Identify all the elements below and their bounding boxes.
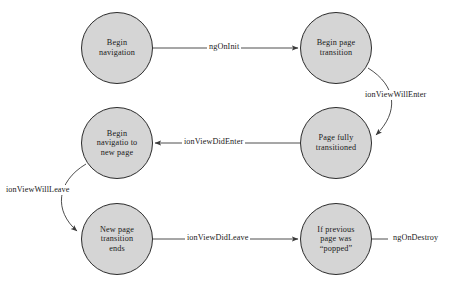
node-page-fully-transitioned[interactable]: Page fully transitioned	[300, 107, 372, 179]
node-begin-navigation-new-page[interactable]: Begin navigatio to new page	[81, 107, 153, 179]
edge-label-ion-view-did-enter: ionViewDidEnter	[182, 137, 245, 147]
edge-label-ion-view-did-leave: ionViewDidLeave	[185, 233, 250, 243]
node-begin-page-transition-label: Begin page transition	[313, 38, 360, 57]
node-begin-navigation-label: Begin navigation	[95, 38, 139, 57]
edge-label-ion-view-will-leave: ionViewWillLeave	[4, 185, 72, 195]
node-page-fully-transitioned-label: Page fully transitioned	[312, 133, 360, 152]
edge-ion-view-will-enter-curve	[368, 68, 392, 135]
node-begin-navigation-new-page-label: Begin navigatio to new page	[93, 129, 142, 158]
edge-label-ng-on-init: ngOnInit	[207, 42, 241, 52]
edge-label-ion-view-will-enter: ionViewWillEnter	[363, 90, 428, 100]
node-new-page-transition-ends[interactable]: New page transition ends	[81, 203, 153, 275]
node-new-page-transition-ends-label: New page transition ends	[96, 225, 138, 254]
node-begin-page-transition[interactable]: Begin page transition	[300, 12, 372, 84]
node-previous-page-popped-label: If previous page was “popped”	[313, 225, 358, 254]
edge-ion-view-will-leave-curve	[61, 164, 86, 231]
edge-label-ng-on-destroy: ngOnDestroy	[391, 233, 440, 243]
node-previous-page-popped[interactable]: If previous page was “popped”	[300, 203, 372, 275]
state-diagram: Begin navigation Begin page transition B…	[0, 0, 452, 289]
node-begin-navigation[interactable]: Begin navigation	[81, 12, 153, 84]
